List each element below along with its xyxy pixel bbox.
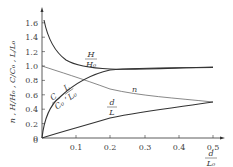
svg-text:0.2: 0.2 <box>25 120 38 129</box>
svg-text:0.2: 0.2 <box>104 143 117 152</box>
svg-text:d: d <box>109 98 114 107</box>
chart: 0 0.2 0.4 0.6 0.8 1.0 1.2 1.4 1.6 0 0.1 … <box>0 0 233 167</box>
svg-text:1.4: 1.4 <box>25 33 38 42</box>
svg-text:0.3: 0.3 <box>139 143 152 152</box>
label-n: n <box>132 85 137 94</box>
x-ticks <box>76 135 213 138</box>
y-axis-arrow-icon <box>41 7 44 12</box>
svg-text:0.1: 0.1 <box>70 143 83 152</box>
y-axis-label: n , H/H₀ , C/C₀ , L/L₀ <box>8 40 17 123</box>
svg-text:H₀: H₀ <box>85 60 97 69</box>
label-H-over-H0: H H₀ <box>85 50 97 69</box>
x-axis-arrow-icon <box>220 137 225 140</box>
curve-d-over-L <box>42 102 213 138</box>
svg-text:d: d <box>208 149 213 158</box>
svg-text:0.6: 0.6 <box>25 91 38 100</box>
y-ticks <box>42 23 45 124</box>
svg-text:0: 0 <box>33 136 38 145</box>
svg-text:1.6: 1.6 <box>25 19 38 28</box>
curve-C-over-C0 <box>42 68 213 139</box>
svg-text:0.4: 0.4 <box>173 143 186 152</box>
svg-text:H: H <box>87 50 96 59</box>
svg-text:1.0: 1.0 <box>25 62 38 71</box>
svg-text:L₀: L₀ <box>206 159 216 167</box>
svg-text:0.4: 0.4 <box>25 105 38 114</box>
y-tick-labels: 0 0.2 0.4 0.6 0.8 1.0 1.2 1.4 1.6 <box>25 19 38 144</box>
svg-text:0.8: 0.8 <box>25 76 38 85</box>
curve-H-over-H0 <box>44 20 213 69</box>
label-d-over-L: d L <box>107 98 117 117</box>
svg-text:1.2: 1.2 <box>25 48 38 57</box>
svg-text:L: L <box>108 108 114 117</box>
